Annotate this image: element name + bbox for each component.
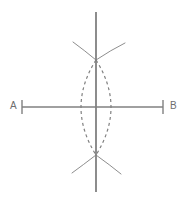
point-label-a: A bbox=[10, 101, 17, 111]
wing-bottom-left bbox=[72, 155, 96, 173]
geometry-canvas bbox=[0, 0, 187, 204]
point-label-b: B bbox=[170, 101, 177, 111]
wing-bottom-right bbox=[96, 155, 121, 174]
construction-figure: A B bbox=[0, 0, 187, 204]
wing-top-left bbox=[73, 42, 96, 60]
wing-top-right bbox=[96, 43, 125, 60]
compass-arc-wings bbox=[72, 42, 125, 174]
